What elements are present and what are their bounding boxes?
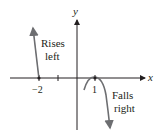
annotation-right: right: [114, 102, 135, 114]
y-axis-label: y: [72, 5, 78, 17]
tick-label-one: 1: [92, 84, 97, 95]
curve-right-branch: [84, 77, 110, 128]
curve-left-branch: [33, 28, 39, 79]
zero-point-neg-two: [37, 76, 40, 79]
annotation-rises: Rises: [41, 37, 65, 49]
zero-point-one: [93, 76, 96, 79]
tick-label-neg-two: −2: [32, 84, 43, 95]
annotation-falls: Falls: [112, 89, 133, 101]
graph-canvas: y x −2 1 Rises left Falls right: [0, 0, 161, 138]
x-axis-label: x: [147, 71, 153, 83]
annotation-left: left: [45, 50, 60, 62]
